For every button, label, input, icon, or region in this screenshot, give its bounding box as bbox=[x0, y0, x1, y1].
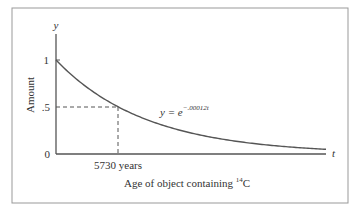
x-axis-label: Age of object containing 14C bbox=[124, 176, 250, 189]
x-axis-label-text: Age of object containing bbox=[124, 177, 236, 189]
y-tick-label-half: .5 bbox=[42, 101, 51, 113]
y-axis-label: Amount bbox=[24, 77, 36, 113]
equation-label: y = e−.00012t bbox=[159, 104, 210, 118]
x-axis-symbol: t bbox=[332, 147, 336, 159]
y-tick-label-1: 1 bbox=[44, 54, 50, 66]
y-axis-symbol: y bbox=[53, 19, 59, 31]
equation-exponent: −.00012t bbox=[183, 104, 210, 112]
chart: y t 1 .5 0 Amount 5730 years y = e−.0001… bbox=[0, 0, 361, 210]
equation-lhs: y = e bbox=[159, 106, 183, 118]
half-life-annotation: 5730 years bbox=[94, 159, 142, 171]
x-axis-label-suffix: C bbox=[243, 177, 250, 189]
y-tick-label-0: 0 bbox=[45, 148, 51, 160]
